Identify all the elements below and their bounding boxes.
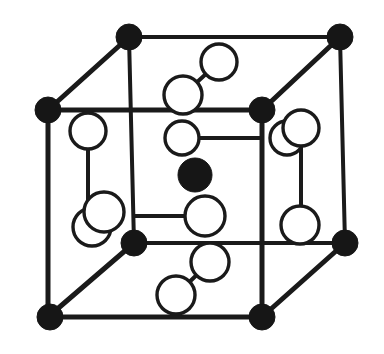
open-atom-right-upper	[283, 110, 319, 146]
open-atom-top-upper	[201, 44, 237, 80]
corner-back-top-right	[327, 24, 353, 50]
corner-front-bottom-left	[37, 304, 63, 330]
corner-front-bottom-right	[249, 304, 275, 330]
corner-back-bottom-left	[121, 230, 147, 256]
open-atom-inner-left	[165, 121, 199, 155]
body-center-atom	[178, 158, 212, 192]
crystal-structure-figure	[0, 0, 384, 354]
corner-back-bottom-right	[332, 230, 358, 256]
open-atom-inner-lower	[185, 196, 225, 236]
open-atom-left-lower	[84, 192, 124, 232]
open-atom-bottom-upper	[191, 243, 229, 281]
open-atom-right-lower	[281, 206, 319, 244]
unit-cell-diagram	[0, 0, 384, 354]
open-atom-left-upper	[70, 113, 106, 149]
open-atom-top-lower	[164, 76, 202, 114]
open-atom-bottom-lower	[157, 276, 195, 314]
corner-front-top-right	[249, 97, 275, 123]
corner-front-top-left	[35, 97, 61, 123]
corner-back-top-left	[116, 24, 142, 50]
